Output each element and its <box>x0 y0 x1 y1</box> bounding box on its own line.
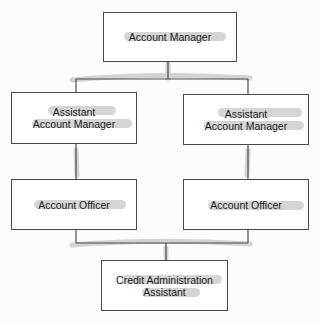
node-label-line1: Assistant <box>53 106 96 118</box>
org-chart-page: Account Manager Assistant Account Manage… <box>0 0 320 324</box>
node-label: Account Officer <box>38 199 110 211</box>
node-assistant-account-manager-right: Assistant Account Manager <box>183 94 309 145</box>
node-label-line1: Credit Administration <box>116 274 213 286</box>
node-label-line2: Account Manager <box>205 120 287 132</box>
node-label: Account Officer <box>210 199 282 211</box>
node-account-officer-right: Account Officer <box>183 179 309 230</box>
node-label-line2: Assistant <box>143 286 186 298</box>
node-account-officer-left: Account Officer <box>11 179 137 230</box>
node-assistant-account-manager-left: Assistant Account Manager <box>11 92 137 144</box>
node-account-manager: Account Manager <box>103 12 237 62</box>
node-label: Account Manager <box>129 31 211 43</box>
node-label-line2: Account Manager <box>33 118 115 130</box>
node-credit-administration-assistant: Credit Administration Assistant <box>101 260 228 311</box>
node-label-line1: Assistant <box>225 108 268 120</box>
